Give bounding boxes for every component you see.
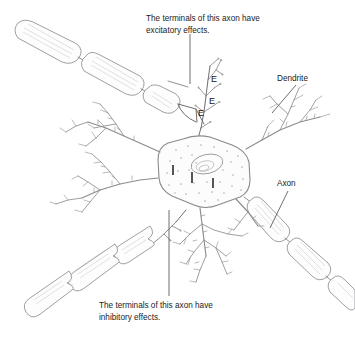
excitatory-annotation: The terminals of this axon have excitato… — [146, 14, 260, 35]
dendritic-spines-upper-left — [98, 118, 134, 140]
excitatory-annotation-line2: excitatory effects. — [146, 26, 210, 35]
excitatory-marker-2: E — [209, 96, 215, 106]
dendrite-lower — [173, 208, 248, 282]
excitatory-annotation-line1: The terminals of this axon have — [146, 14, 260, 23]
myelin-segment-upper-2 — [81, 52, 144, 95]
dendrite-upper-left — [60, 102, 160, 152]
myelin-segment-lower-2 — [68, 244, 119, 291]
dendritic-spines-left — [94, 166, 132, 192]
excitatory-marker-1: E — [211, 74, 217, 84]
dendrite-left — [50, 152, 158, 212]
neuron-diagram-figure: The terminals of this axon have excitato… — [0, 0, 355, 340]
excitatory-marker-3: E — [198, 108, 204, 118]
axon-label: Axon — [277, 179, 296, 188]
soma-cell-body — [158, 136, 250, 208]
inhibitory-annotation-line1: The terminals of this axon have — [99, 301, 213, 310]
myelin-segment-lower-3 — [24, 271, 73, 317]
myelin-segment-right-2 — [287, 238, 331, 280]
excitatory-terminal-branches — [178, 58, 224, 143]
myelin-segment-upper-1 — [15, 20, 81, 63]
dendritic-spines-upper-right — [268, 106, 315, 136]
neuron-illustration: The terminals of this axon have excitato… — [0, 0, 355, 340]
right-myelinated-axon — [244, 197, 355, 310]
inhibitory-annotation-line2: inhibitory effects. — [99, 313, 160, 322]
myelin-segment-lower-1 — [114, 226, 154, 264]
myelin-segment-upper-3 — [143, 85, 180, 113]
myelin-segment-right-3 — [328, 276, 355, 310]
dendrite-label: Dendrite — [277, 74, 308, 83]
inhibitory-annotation: The terminals of this axon have inhibito… — [99, 301, 213, 322]
dendritic-spines-lower — [193, 215, 209, 263]
dendrite-leader-line — [272, 85, 296, 113]
